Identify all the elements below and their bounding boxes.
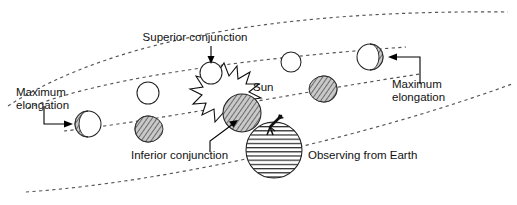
label-inferior-conjunction: Inferior conjunction xyxy=(131,149,228,161)
label-maximum-elongation-right: Maximum elongation xyxy=(392,78,445,103)
planet-maximum-elongation-left xyxy=(75,111,101,137)
label-sun: Sun xyxy=(253,81,273,93)
planet-full-right xyxy=(281,52,301,72)
label-maximum-elongation-left: Maximum elongation xyxy=(16,86,69,111)
planet-maximum-elongation-right xyxy=(357,44,383,70)
leader-superior-conjunction xyxy=(208,46,215,64)
diagram-canvas: Superior conjunction Sun Inferior conjun… xyxy=(0,0,517,205)
planet-shaded-hemisphere xyxy=(135,116,163,142)
label-maximum-elongation-left-line1: Maximum xyxy=(16,86,66,98)
label-maximum-elongation-right-line1: Maximum xyxy=(392,78,442,90)
planet-inferior-conjunction xyxy=(223,94,261,132)
planet-gibbous-left xyxy=(137,82,159,104)
planet-superior-conjunction xyxy=(200,62,222,84)
planet-crescent-left xyxy=(135,116,163,142)
label-superior-conjunction: Superior conjunction xyxy=(143,31,248,43)
label-maximum-elongation-left-line2: elongation xyxy=(16,99,69,111)
label-observing-from-earth: Observing from Earth xyxy=(308,149,417,161)
label-maximum-elongation-right-line2: elongation xyxy=(392,91,445,103)
leader-inferior-conjunction xyxy=(210,120,238,152)
planet-shaded-hemisphere xyxy=(309,76,337,102)
planet-crescent-right xyxy=(309,76,337,102)
planet-shaded-disc xyxy=(223,94,261,132)
orbit-phase-diagram: Superior conjunction Sun Inferior conjun… xyxy=(0,0,517,205)
